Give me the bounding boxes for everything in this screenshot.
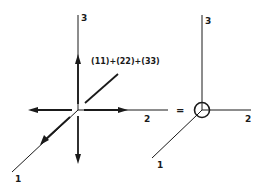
origin-inner-diagonal — [197, 110, 202, 115]
left-axis-1-label: 1 — [15, 174, 21, 184]
right-diagram: 3 2 1 — [152, 15, 251, 170]
diagonal-down-arrow — [46, 117, 70, 139]
diagonal-up-arrow — [85, 74, 118, 103]
right-axis-2-label: 2 — [245, 114, 251, 124]
stress-sum-annotation: (11)+(22)+(33) — [91, 57, 160, 66]
up-arrow-head — [75, 54, 81, 64]
left-diagram: 3 2 1 (11)+(22)+(33) — [12, 13, 168, 184]
left-axis-2-label: 2 — [144, 114, 150, 124]
right-axis-1-label: 1 — [157, 160, 163, 170]
down-arrow-head — [75, 154, 81, 164]
equals-sign: = — [176, 105, 184, 116]
left-arrow-head — [28, 107, 38, 113]
stress-diagram: 3 2 1 (11)+(22)+(33) = 3 2 — [0, 0, 266, 190]
right-axis-1 — [152, 115, 197, 158]
left-axis-3-label: 3 — [81, 13, 87, 23]
origin-circle-symbol — [195, 103, 210, 118]
right-arrow-head — [118, 107, 128, 113]
right-axis-3-label: 3 — [205, 16, 211, 26]
